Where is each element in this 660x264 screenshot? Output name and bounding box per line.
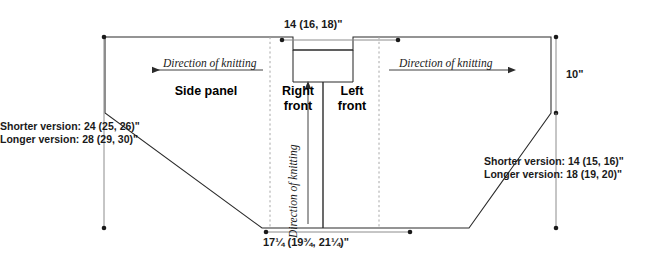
direction-of-knitting-center-label: Direction of knitting xyxy=(286,145,300,238)
top-dimension-line xyxy=(280,38,401,43)
right-front-label-line1: Right xyxy=(276,84,320,99)
right-length-dimension-label: Shorter version: 14 (15, 16)" Longer ver… xyxy=(484,155,624,181)
direction-of-knitting-left-label: Direction of knitting xyxy=(163,56,256,70)
knitting-schematic-diagram: 14 (16, 18)" 17¼ (19¾, 21¼)" 10" Shorter… xyxy=(0,0,660,264)
right-shorter-version-label: Shorter version: 14 (15, 16)" xyxy=(484,155,624,168)
left-front-label-line2: front xyxy=(330,99,374,114)
right-front-label-line2: front xyxy=(276,99,320,114)
bottom-width-dimension-label: 17¼ (19¾, 21¼)" xyxy=(263,236,349,249)
neck-notch xyxy=(293,50,353,82)
left-longer-version-label: Longer version: 28 (29, 30)" xyxy=(0,133,100,146)
left-front-label-line1: Left xyxy=(330,84,374,99)
left-length-dimension-label: Shorter version: 24 (25, 26)" Longer ver… xyxy=(0,120,100,146)
left-shorter-version-label: Shorter version: 24 (25, 26)" xyxy=(0,120,100,133)
right-longer-version-label: Longer version: 18 (19, 20)" xyxy=(484,168,624,181)
right-upper-dimension-line xyxy=(554,35,559,116)
side-panel-label: Side panel xyxy=(146,84,266,99)
top-width-dimension-label: 14 (16, 18)" xyxy=(284,18,342,31)
direction-of-knitting-right-label: Direction of knitting xyxy=(399,56,492,70)
right-height-dimension-label: 10" xyxy=(566,68,583,81)
